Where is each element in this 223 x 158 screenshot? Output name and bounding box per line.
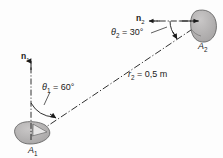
diagram-canvas (0, 0, 223, 158)
angle-arc-theta2 (151, 21, 177, 39)
label-distance-r2: r2 = 0,5 m (128, 70, 167, 81)
radiation-view-factor-diagram: n1 n2 θ1 = 60° θ2 = 30° r2 = 0,5 m A1 A2 (0, 0, 223, 158)
label-surface-a2: A2 (198, 42, 208, 53)
label-surface-a1: A1 (28, 146, 38, 157)
surface-a1 (15, 122, 50, 144)
label-normal-n1: n1 (21, 52, 30, 64)
label-normal-n2: n2 (136, 14, 145, 26)
angle-arc-theta1 (31, 92, 56, 118)
label-theta1: θ1 = 60° (42, 83, 74, 94)
label-theta2: θ2 = 30° (111, 28, 143, 39)
surface-a2 (191, 10, 217, 42)
